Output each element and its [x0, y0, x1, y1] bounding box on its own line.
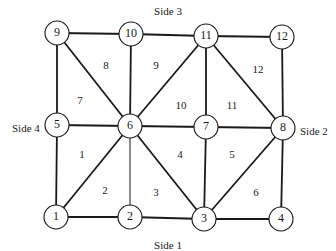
node-10: 10: [119, 22, 143, 46]
side-2-label: Side 2: [300, 125, 328, 137]
edge-6-9: [57, 33, 130, 126]
side-1-label: Side 1: [154, 239, 182, 251]
edge-3-7: [204, 127, 206, 219]
node-5: 5: [45, 113, 69, 137]
edge-11-8: [206, 36, 283, 128]
node-9: 9: [45, 21, 69, 45]
element-label: 3: [153, 186, 159, 198]
element-label: 1: [79, 148, 85, 160]
edge-4-8: [281, 128, 283, 219]
element-label: 12: [253, 63, 264, 75]
edge-6-10: [130, 34, 131, 126]
node-3: 3: [192, 207, 216, 231]
element-label: 6: [253, 186, 259, 198]
node-label: 3: [201, 211, 207, 225]
element-label: 5: [229, 148, 235, 160]
node-label: 9: [54, 25, 60, 39]
edge-3-8: [204, 128, 283, 219]
node-label: 2: [127, 209, 133, 223]
mesh-diagram: 123456789101112 123456789101112 Side 1Si…: [0, 0, 336, 251]
edge-8-12: [282, 37, 283, 128]
node-7: 7: [194, 115, 218, 139]
node-1: 1: [44, 205, 68, 229]
node-label: 10: [125, 26, 137, 40]
node-2: 2: [118, 205, 142, 229]
node-label: 6: [127, 118, 133, 132]
element-label: 4: [177, 148, 183, 160]
node-label: 1: [53, 209, 59, 223]
element-label: 10: [176, 99, 188, 111]
edge-6-3: [130, 126, 204, 219]
node-label: 12: [276, 29, 288, 43]
node-label: 11: [200, 28, 212, 42]
mesh-edges: [56, 33, 283, 219]
node-8: 8: [271, 116, 295, 140]
node-label: 5: [54, 117, 60, 131]
node-12: 12: [270, 25, 294, 49]
element-label: 11: [227, 99, 238, 111]
node-label: 8: [280, 120, 286, 134]
node-label: 4: [278, 211, 284, 225]
side-4-label: Side 4: [12, 122, 40, 134]
node-label: 7: [203, 119, 209, 133]
element-label: 2: [102, 184, 108, 196]
side-3-label: Side 3: [154, 5, 182, 17]
node-4: 4: [269, 207, 293, 231]
element-label: 8: [103, 59, 109, 71]
edge-1-5: [56, 125, 57, 217]
edge-6-11: [130, 36, 206, 126]
edge-1-6: [56, 126, 130, 217]
element-label: 7: [77, 94, 83, 106]
node-11: 11: [194, 24, 218, 48]
node-6: 6: [118, 114, 142, 138]
element-label: 9: [153, 59, 159, 71]
